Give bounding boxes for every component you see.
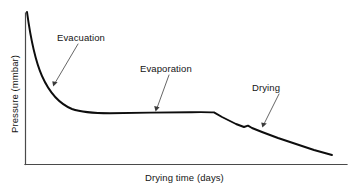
- drying-leader-line: [264, 94, 279, 124]
- x-axis-label: Drying time (days): [145, 172, 224, 183]
- drying-arrowhead-icon: [261, 122, 267, 127]
- evaporation-leader-line: [157, 75, 169, 108]
- annotation-label-evaporation: Evaporation: [140, 63, 192, 74]
- evacuation-arrowhead-icon: [52, 81, 57, 86]
- evaporation-arrowhead-icon: [154, 106, 159, 112]
- y-axis-label: Pressure (mmbar): [9, 55, 20, 133]
- evacuation-leader-line: [55, 44, 78, 83]
- annotation-label-drying: Drying: [252, 82, 280, 93]
- chart-canvas: Pressure (mmbar) Drying time (days) Evac…: [0, 0, 356, 189]
- annotation-label-evacuation: Evacuation: [57, 32, 105, 43]
- chart-figure: Pressure (mmbar) Drying time (days) Evac…: [0, 0, 356, 189]
